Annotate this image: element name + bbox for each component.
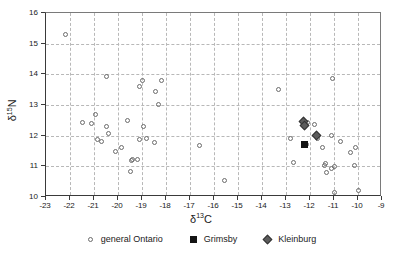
legend-marker-open-circle-icon [86,235,95,244]
x-tick-label: -21 [88,201,99,210]
gridline-vertical [118,13,119,195]
x-tick-mark [69,196,70,200]
data-point-general-ontario [152,140,157,145]
data-point-general-ontario [353,145,358,150]
data-point-general-ontario [312,122,317,127]
x-tick-label: -10 [352,201,363,210]
scatter-plot-figure: -23-22-21-20-19-18-17-16-15-14-13-12-11-… [0,0,402,258]
gridline-vertical [358,13,359,195]
x-tick-label: -18 [160,201,171,210]
x-tick-label: -19 [136,201,147,210]
y-axis-label-symbol: δ [6,115,18,121]
data-point-general-ontario [222,178,227,183]
data-point-general-ontario [99,139,104,144]
data-point-general-ontario [93,112,98,117]
gridline-horizontal [46,105,380,106]
legend-marker-filled-diamond-icon [263,235,272,244]
data-point-general-ontario [104,124,109,129]
y-tick-mark [41,196,45,197]
data-point-general-ontario [113,149,118,154]
data-point-general-ontario [338,139,343,144]
legend-item-kleinburg[interactable]: Kleinburg [263,234,316,244]
x-tick-mark [309,196,310,200]
legend-item-general-ontario[interactable]: general Ontario [86,234,163,244]
data-point-general-ontario [356,188,361,193]
data-point-general-ontario [330,76,335,81]
x-tick-mark [261,196,262,200]
y-tick-label: 15 [22,38,38,47]
y-tick-label: 16 [22,8,38,17]
x-tick-label: -17 [184,201,195,210]
gridline-vertical [70,13,71,195]
data-point-grimsby [301,141,308,148]
data-point-general-ontario [197,143,202,148]
x-axis-label-superscript: 13 [196,212,204,219]
data-point-general-ontario [291,160,296,165]
x-tick-label: -22 [64,201,75,210]
data-point-general-ontario [128,169,133,174]
data-point-general-ontario [159,78,164,83]
gridline-vertical [286,13,287,195]
gridline-vertical [190,13,191,195]
x-tick-label: -12 [304,201,315,210]
data-point-general-ontario [332,190,337,195]
data-point-general-ontario [119,145,124,150]
x-tick-mark [213,196,214,200]
legend-marker-filled-square-icon [189,235,198,244]
x-tick-mark [45,196,46,200]
data-point-general-ontario [276,87,281,92]
legend-label: Kleinburg [278,234,316,244]
data-point-general-ontario [329,133,334,138]
plot-area [45,12,381,196]
y-tick-mark [41,165,45,166]
x-tick-mark [165,196,166,200]
legend-item-grimsby[interactable]: Grimsby [189,234,238,244]
x-tick-label: -11 [328,201,338,210]
x-tick-mark [189,196,190,200]
legend-label: Grimsby [204,234,238,244]
legend-marker-glyph [88,237,93,242]
data-point-general-ontario [104,74,109,79]
data-point-general-ontario [288,136,293,141]
x-tick-mark [93,196,94,200]
gridline-vertical [238,13,239,195]
legend-label: general Ontario [101,234,163,244]
y-tick-mark [41,73,45,74]
data-point-general-ontario [348,150,353,155]
gridline-vertical [142,13,143,195]
x-axis-label: δ13C [0,212,402,225]
data-point-general-ontario [144,136,149,141]
y-axis-label-superscript: 15 [6,107,13,115]
x-tick-mark [237,196,238,200]
gridline-vertical [94,13,95,195]
y-tick-mark [41,43,45,44]
y-tick-label: 14 [22,69,38,78]
y-tick-label: 11 [22,161,38,170]
x-tick-mark [141,196,142,200]
y-tick-label: 12 [22,130,38,139]
chart-legend: general OntarioGrimsbyKleinburg [0,234,402,244]
x-tick-mark [285,196,286,200]
x-tick-mark [357,196,358,200]
x-tick-label: -15 [232,201,243,210]
legend-marker-glyph [263,234,273,244]
data-point-general-ontario [137,84,142,89]
data-point-general-ontario [106,131,111,136]
x-axis-label-element: C [204,213,212,225]
gridline-vertical [262,13,263,195]
gridline-horizontal [46,74,380,75]
data-point-general-ontario [80,120,85,125]
data-point-general-ontario [352,163,357,168]
data-point-general-ontario [63,32,68,37]
x-tick-mark [333,196,334,200]
data-point-general-ontario [153,89,158,94]
y-axis-label-element: N [6,99,18,107]
data-point-general-ontario [140,78,145,83]
gridline-vertical [214,13,215,195]
x-tick-label: -20 [112,201,123,210]
data-point-general-ontario [89,121,94,126]
y-tick-label: 10 [22,192,38,201]
data-point-general-ontario [135,157,140,162]
y-tick-mark [41,104,45,105]
x-tick-label: -16 [208,201,219,210]
